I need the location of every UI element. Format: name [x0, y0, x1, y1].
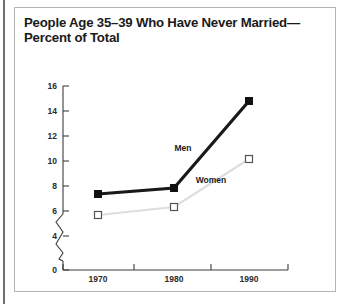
- series-label-men: Men: [175, 143, 192, 153]
- women-marker-1990: [246, 156, 253, 163]
- y-tick-label-10: 10: [48, 156, 58, 166]
- chart-plot-area: 16 14 12 10 8 6 4 0: [15, 8, 337, 293]
- y-tick-label-14: 14: [48, 106, 58, 116]
- men-marker-1970: [95, 191, 102, 198]
- y-tick-label-12: 12: [48, 131, 58, 141]
- y-axis-break-symbol: [56, 214, 63, 261]
- men-marker-1990: [246, 98, 253, 105]
- x-axis: [63, 264, 288, 270]
- x-axis-ticks: 1970 1980 1990: [89, 274, 259, 284]
- series-men: Men: [95, 98, 253, 198]
- page: People Age 35–39 Who Have Never Married—…: [0, 0, 346, 304]
- y-tick-label-4: 4: [52, 231, 57, 241]
- figure-frame: People Age 35–39 Who Have Never Married—…: [14, 7, 336, 292]
- x-tick-label-1980: 1980: [165, 274, 184, 284]
- men-marker-1980: [171, 185, 178, 192]
- x-tick-label-1990: 1990: [240, 274, 259, 284]
- y-tick-label-0: 0: [52, 265, 57, 275]
- men-line: [98, 101, 249, 194]
- women-marker-1970: [95, 212, 102, 219]
- women-marker-1980: [171, 204, 178, 211]
- y-tick-label-16: 16: [48, 81, 58, 91]
- y-tick-label-6: 6: [52, 206, 57, 216]
- y-tick-label-8: 8: [52, 181, 57, 191]
- page-left-rule: [3, 0, 5, 304]
- y-axis-ticks: 16 14 12 10 8 6 4 0: [48, 81, 69, 275]
- series-label-women: Women: [196, 175, 227, 185]
- y-axis: [56, 86, 63, 270]
- x-tick-label-1970: 1970: [89, 274, 108, 284]
